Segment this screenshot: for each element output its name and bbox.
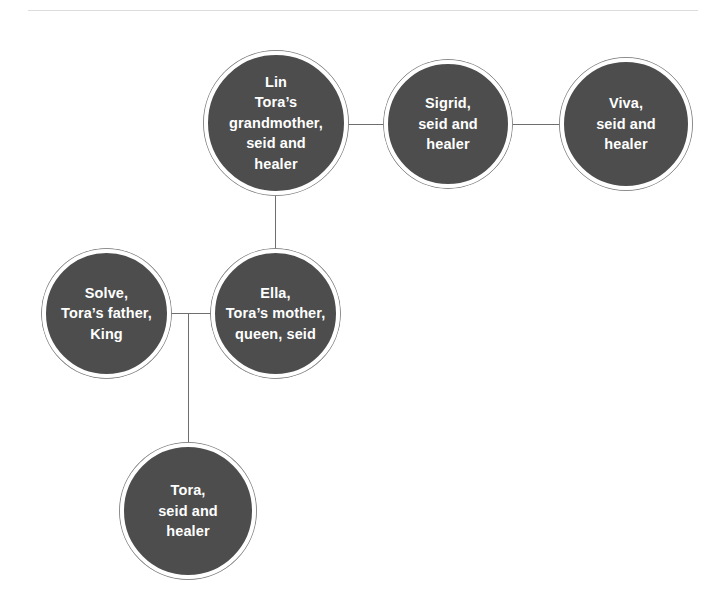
node-solve[interactable]: Solve, Tora’s father, King xyxy=(41,248,172,379)
node-lin-inner: Lin Tora’s grandmother, seid and healer xyxy=(204,51,348,195)
connector-lin-ella xyxy=(275,195,276,249)
node-ella[interactable]: Ella, Tora’s mother, queen, seid xyxy=(210,248,341,379)
node-tora[interactable]: Tora, seid and healer xyxy=(119,442,257,580)
node-viva-inner: Viva, seid and healer xyxy=(560,58,692,190)
connector-ella-tora xyxy=(188,313,189,443)
node-solve-inner: Solve, Tora’s father, King xyxy=(42,249,171,378)
node-lin[interactable]: Lin Tora’s grandmother, seid and healer xyxy=(203,50,349,196)
node-tora-label: Tora, seid and healer xyxy=(152,480,224,542)
node-ella-inner: Ella, Tora’s mother, queen, seid xyxy=(211,249,340,378)
node-viva[interactable]: Viva, seid and healer xyxy=(559,57,693,191)
connector-solve-ella xyxy=(171,313,211,314)
connector-lin-sigrid xyxy=(348,124,384,125)
node-sigrid[interactable]: Sigrid, seid and healer xyxy=(383,59,513,189)
top-divider xyxy=(28,10,698,11)
node-ella-label: Ella, Tora’s mother, queen, seid xyxy=(220,283,332,345)
connector-sigrid-viva xyxy=(513,124,560,125)
node-lin-label: Lin Tora’s grandmother, seid and healer xyxy=(223,72,329,175)
node-viva-label: Viva, seid and healer xyxy=(590,93,662,155)
family-tree-diagram: Lin Tora’s grandmother, seid and healer … xyxy=(0,0,720,612)
node-sigrid-inner: Sigrid, seid and healer xyxy=(384,60,512,188)
node-sigrid-label: Sigrid, seid and healer xyxy=(412,93,484,155)
node-solve-label: Solve, Tora’s father, King xyxy=(55,283,158,345)
node-tora-inner: Tora, seid and healer xyxy=(120,443,256,579)
